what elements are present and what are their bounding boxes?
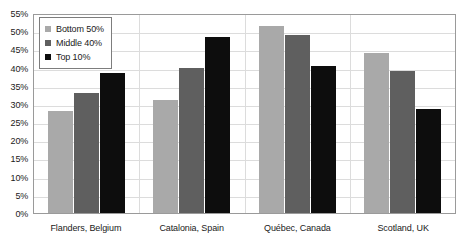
- legend-label: Top 10%: [56, 52, 90, 62]
- legend-label: Middle 40%: [56, 38, 102, 48]
- y-axis-tick-label: 35%: [11, 82, 28, 92]
- bar-group: [350, 15, 455, 213]
- y-axis-tick-label: 30%: [11, 100, 28, 110]
- bar[interactable]: [390, 71, 415, 213]
- legend-swatch-icon: [45, 26, 51, 32]
- bar[interactable]: [100, 73, 125, 213]
- x-axis-category-label: Scotland, UK: [350, 216, 456, 242]
- y-axis-tick-label: 0%: [15, 209, 28, 219]
- legend-swatch-icon: [45, 54, 51, 60]
- y-axis-tick-label: 15%: [11, 154, 28, 164]
- bar[interactable]: [48, 111, 73, 213]
- bar[interactable]: [364, 53, 389, 213]
- bar-chart: 55%50%45%40%35%30%25%20%15%10%5%0% Botto…: [0, 0, 474, 245]
- y-axis-tick-label: 5%: [15, 191, 28, 201]
- bar[interactable]: [259, 26, 284, 213]
- legend-label: Bottom 50%: [56, 24, 104, 34]
- y-axis-tick-label: 25%: [11, 118, 28, 128]
- bar[interactable]: [416, 109, 441, 213]
- bar[interactable]: [285, 35, 310, 213]
- x-axis-category-label: Catalonia, Spain: [139, 216, 245, 242]
- bar[interactable]: [153, 100, 178, 213]
- bar[interactable]: [205, 37, 230, 213]
- bar-group: [245, 15, 350, 213]
- legend-item[interactable]: Bottom 50%: [45, 22, 104, 36]
- legend-swatch-icon: [45, 40, 51, 46]
- legend: Bottom 50%Middle 40%Top 10%: [39, 17, 112, 69]
- x-axis: Flanders, BelgiumCatalonia, SpainQuébec,…: [33, 216, 456, 242]
- y-axis-tick-label: 10%: [11, 173, 28, 183]
- y-axis-tick-label: 45%: [11, 45, 28, 55]
- x-axis-category-label: Québec, Canada: [245, 216, 351, 242]
- bar[interactable]: [74, 93, 99, 213]
- legend-item[interactable]: Top 10%: [45, 50, 104, 64]
- y-axis-tick-label: 40%: [11, 64, 28, 74]
- legend-item[interactable]: Middle 40%: [45, 36, 104, 50]
- bar[interactable]: [179, 68, 204, 213]
- x-axis-category-label: Flanders, Belgium: [33, 216, 139, 242]
- y-axis-tick-label: 20%: [11, 136, 28, 146]
- y-axis-tick-label: 50%: [11, 27, 28, 37]
- y-axis-tick-label: 55%: [11, 9, 28, 19]
- y-axis: 55%50%45%40%35%30%25%20%15%10%5%0%: [0, 14, 31, 214]
- bar-group: [139, 15, 244, 213]
- bar[interactable]: [311, 66, 336, 213]
